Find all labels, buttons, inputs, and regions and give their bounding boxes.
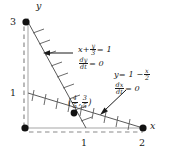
eqn-dydt-deriv-den: dt [79, 63, 89, 70]
x-axis-label: x [150, 121, 155, 131]
equilibrium-point-y3 [22, 18, 29, 25]
nullcline-dydt-zero [28, 22, 92, 128]
eqn-dydt-plus: + [83, 44, 90, 54]
eqn-dxdt-deriv-fraction: dxdt [115, 82, 125, 96]
eqn-dxdt-deriv-rhs: = 0 [125, 83, 140, 93]
y-tick-label-3: 3 [10, 16, 16, 27]
equilibrium-point-interior [71, 110, 78, 117]
annotation-nullcline-dxdt: y= 1 −x2 dxdt= 0 [114, 68, 151, 96]
eqn-dydt-deriv-fraction: dydt [79, 57, 89, 71]
annotation-dydt-derivative: dydt= 0 [78, 57, 112, 71]
eqn-dydt-deriv-rhs: = 0 [89, 58, 104, 68]
eqn-dxdt-fraction: x2 [144, 68, 150, 82]
x-tick-label-1: 1 [81, 137, 87, 148]
eqn-dydt-frac-den: 3 [90, 49, 96, 56]
annotation-nullcline-dydt: x+y3= 1 dydt= 0 [78, 43, 112, 71]
y-tick-label-1: 1 [10, 87, 16, 98]
point-label-open-paren: ( [68, 97, 71, 107]
plot-canvas [0, 0, 188, 164]
intersection-point-label: (45,35) [68, 95, 92, 109]
y-axis-label: y [36, 1, 41, 11]
phase-plane-figure: y x 3 1 1 2 x+y3= 1 dydt= 0 y= 1 −x2 dxd… [0, 0, 188, 164]
point-label-y-den: 5 [82, 102, 88, 110]
eqn-dydt-fraction: y3 [90, 43, 96, 57]
equilibrium-point-x2 [139, 124, 146, 131]
point-label-y-fraction: 35 [82, 95, 88, 109]
x-tick-label-2: 2 [139, 137, 145, 148]
eqn-dxdt-eq: = 1 − [119, 69, 144, 79]
eqn-dxdt-deriv-den: dt [115, 88, 125, 95]
annotation-dydt-equation: x+y3= 1 [78, 43, 112, 57]
equilibrium-point-origin [21, 124, 28, 131]
eqn-dxdt-frac-den: 2 [144, 74, 150, 81]
eqn-dydt-rhs: = 1 [97, 44, 112, 54]
annotation-dxdt-derivative: dxdt= 0 [114, 82, 151, 96]
annotation-arrow-dydt [43, 50, 73, 55]
point-label-close-paren: ) [88, 97, 91, 107]
annotation-dxdt-equation: y= 1 −x2 [114, 68, 151, 82]
